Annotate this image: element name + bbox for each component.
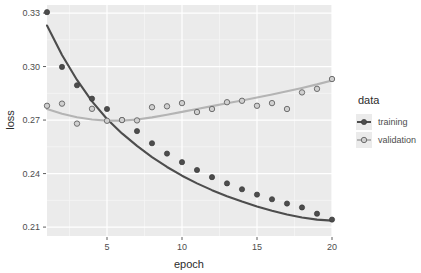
data-point-training <box>329 217 334 222</box>
data-point-training <box>59 64 64 69</box>
y-tick-label: 0.21 <box>22 222 40 232</box>
data-point-validation <box>134 118 139 123</box>
data-point-validation <box>179 100 184 105</box>
data-point-training <box>224 181 229 186</box>
x-axis-title: epoch <box>174 258 204 270</box>
data-point-training <box>269 197 274 202</box>
data-point-validation <box>254 103 259 108</box>
data-point-training <box>134 129 139 134</box>
data-point-training <box>89 96 94 101</box>
data-point-training <box>299 205 304 210</box>
data-point-training <box>194 167 199 172</box>
data-point-training <box>254 192 259 197</box>
data-point-training <box>314 211 319 216</box>
x-tick-label: 15 <box>252 242 262 252</box>
chart-canvas: 5101520 0.210.240.270.300.33 epoch loss … <box>0 0 421 273</box>
data-point-validation <box>269 100 274 105</box>
data-point-validation <box>284 106 289 111</box>
data-point-training <box>284 201 289 206</box>
data-point-validation <box>224 100 229 105</box>
data-point-validation <box>59 101 64 106</box>
data-point-validation <box>194 109 199 114</box>
data-point-training <box>209 175 214 180</box>
data-point-training <box>239 187 244 192</box>
data-point-validation <box>209 106 214 111</box>
legend-key-marker-validation <box>361 137 366 142</box>
data-point-training <box>164 151 169 156</box>
data-point-validation <box>89 106 94 111</box>
data-point-validation <box>314 86 319 91</box>
legend-title: data <box>358 94 380 106</box>
data-point-validation <box>74 121 79 126</box>
legend-key-marker-training <box>361 119 366 124</box>
data-point-validation <box>299 90 304 95</box>
data-point-training <box>104 106 109 111</box>
data-point-validation <box>104 118 109 123</box>
data-point-validation <box>164 104 169 109</box>
data-point-training <box>179 160 184 165</box>
x-tick-label: 5 <box>104 242 109 252</box>
data-point-validation <box>239 98 244 103</box>
data-point-validation <box>119 117 124 122</box>
data-point-validation <box>329 76 334 81</box>
data-point-validation <box>44 103 49 108</box>
y-axis-title: loss <box>4 110 16 130</box>
data-point-training <box>44 10 49 15</box>
y-tick-label: 0.24 <box>22 169 40 179</box>
data-point-validation <box>149 105 154 110</box>
data-point-training <box>149 141 154 146</box>
legend-label-validation: validation <box>378 135 416 145</box>
y-tick-label: 0.33 <box>22 8 40 18</box>
legend-label-training: training <box>378 117 408 127</box>
y-tick-label: 0.27 <box>22 115 40 125</box>
x-tick-label: 10 <box>177 242 187 252</box>
data-point-training <box>74 83 79 88</box>
y-tick-label: 0.30 <box>22 62 40 72</box>
ggplot-chart: 5101520 0.210.240.270.300.33 epoch loss … <box>0 0 421 273</box>
x-tick-label: 20 <box>327 242 337 252</box>
